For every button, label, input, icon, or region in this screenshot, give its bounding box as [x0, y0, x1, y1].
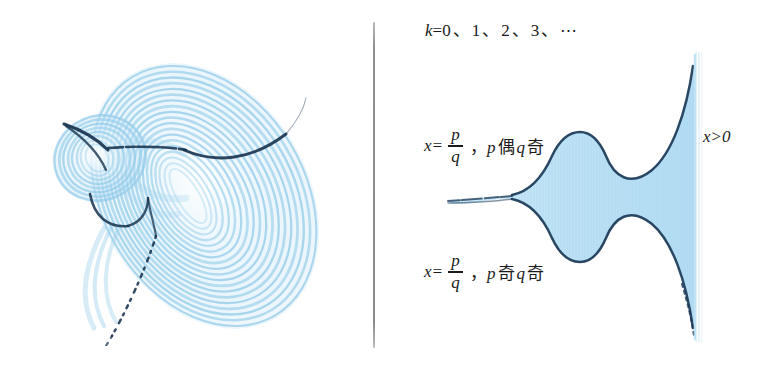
strange-attractor-svg — [8, 46, 368, 346]
odd-odd-separator: ， — [470, 264, 487, 283]
k-separator-3: 、 — [510, 21, 531, 40]
attractor-lower-wing — [85, 226, 120, 328]
horn-region-texture — [440, 52, 720, 342]
strange-attractor-figure — [8, 46, 368, 346]
odd-odd-lhs: x — [424, 262, 432, 282]
k-separator-4: 、 — [539, 21, 560, 40]
k-variable: k — [425, 21, 433, 40]
even-odd-p-var: p — [487, 138, 496, 157]
even-odd-fraction: p q — [448, 126, 463, 166]
k-value-3: 3 — [531, 21, 540, 40]
k-sequence-label: k=0、1、2、3、⋯ — [425, 22, 578, 39]
horn-region-figure — [440, 52, 720, 342]
odd-odd-condition: ，p奇q奇 — [470, 259, 546, 284]
odd-odd-q-var: q — [517, 264, 526, 283]
odd-odd-p-var: p — [487, 264, 496, 283]
label-p-even-q-odd: x = p q ，p偶q奇 — [424, 126, 546, 166]
figure-panel: k=0、1、2、3、⋯ x = p q ，p偶q奇 x = p q ，p奇q奇 … — [0, 0, 774, 372]
k-separator-1: 、 — [451, 21, 472, 40]
even-odd-lhs: x — [424, 136, 432, 156]
k-equals: = — [433, 21, 443, 40]
horn-region-svg — [440, 52, 720, 342]
label-p-odd-q-odd: x = p q ，p奇q奇 — [424, 252, 546, 292]
odd-odd-p-parity: 奇 — [498, 264, 515, 283]
odd-odd-denominator: q — [448, 274, 463, 292]
even-odd-condition: ，p偶q奇 — [470, 133, 546, 158]
odd-odd-q-parity: 奇 — [527, 264, 544, 283]
panel-divider — [373, 22, 375, 348]
even-odd-q-var: q — [517, 138, 526, 157]
even-odd-numerator: p — [448, 126, 463, 144]
k-value-2: 2 — [501, 21, 510, 40]
odd-odd-fraction: p q — [448, 252, 463, 292]
odd-odd-equals: = — [432, 262, 443, 282]
k-separator-2: 、 — [480, 21, 501, 40]
even-odd-equals: = — [432, 136, 443, 156]
even-odd-separator: ， — [470, 138, 487, 157]
k-value-1: 1 — [472, 21, 481, 40]
even-odd-p-parity: 偶 — [498, 138, 515, 157]
label-x-positive: x>0 — [703, 128, 731, 145]
k-value-0: 0 — [442, 21, 451, 40]
even-odd-q-parity: 奇 — [527, 138, 544, 157]
even-odd-denominator: q — [448, 148, 463, 166]
odd-odd-numerator: p — [448, 252, 463, 270]
k-ellipsis: ⋯ — [560, 21, 578, 40]
